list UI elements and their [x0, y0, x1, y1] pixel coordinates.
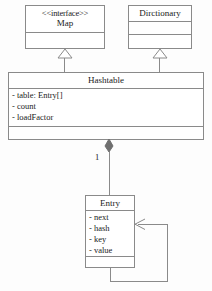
- class-box-entry[interactable]: Entry - next - hash - key - value: [85, 195, 135, 268]
- class-header-map: <<interface>> Map: [26, 6, 104, 33]
- self-association-segment-bottom: [110, 281, 168, 282]
- class-box-map[interactable]: <<interface>> Map: [25, 5, 105, 49]
- class-name-map: Map: [27, 18, 103, 29]
- class-attribute: - count: [9, 101, 203, 112]
- class-box-hashtable[interactable]: Hashtable - table: Entry[] - count - loa…: [8, 72, 204, 140]
- class-operations-hashtable: [9, 127, 203, 139]
- class-name-entry: Entry: [87, 198, 133, 209]
- composition-line: [109, 152, 110, 195]
- class-name-hashtable: Hashtable: [10, 75, 202, 86]
- class-attributes-dictionary: [129, 22, 191, 35]
- class-header-dictionary: Dirctionary: [129, 6, 191, 22]
- class-attribute: - key: [86, 234, 134, 245]
- class-attributes-hashtable: - table: Entry[] - count - loadFactor: [9, 89, 203, 127]
- generalization-arrow-map: [57, 49, 73, 59]
- class-attributes-map: [26, 33, 104, 48]
- generalization-line-dictionary: [159, 58, 160, 72]
- composition-diamond-icon: [104, 139, 114, 153]
- uml-class-diagram-canvas: <<interface>> Map Dirctionary Hashtable …: [0, 0, 212, 291]
- generalization-arrow-dictionary: [152, 49, 168, 59]
- self-association-segment-right: [167, 224, 168, 281]
- class-attribute: - table: Entry[]: [9, 90, 203, 101]
- class-attributes-entry: - next - hash - key - value: [86, 211, 134, 257]
- class-box-dictionary[interactable]: Dirctionary: [128, 5, 192, 49]
- self-association-segment-down: [110, 268, 111, 281]
- class-header-hashtable: Hashtable: [9, 73, 203, 89]
- class-operations-entry: [86, 257, 134, 267]
- multiplicity-label-source: 1: [95, 153, 99, 162]
- class-name-dictionary: Dirctionary: [130, 8, 190, 19]
- open-arrow-icon: [134, 218, 146, 231]
- class-attribute: - hash: [86, 223, 134, 234]
- class-attribute: - next: [86, 212, 134, 223]
- class-header-entry: Entry: [86, 196, 134, 211]
- class-stereotype-map: <<interface>>: [27, 8, 103, 18]
- class-attribute: - loadFactor: [9, 112, 203, 123]
- class-attribute: - value: [86, 245, 134, 256]
- class-operations-dictionary: [129, 35, 191, 48]
- generalization-line-map: [64, 58, 65, 72]
